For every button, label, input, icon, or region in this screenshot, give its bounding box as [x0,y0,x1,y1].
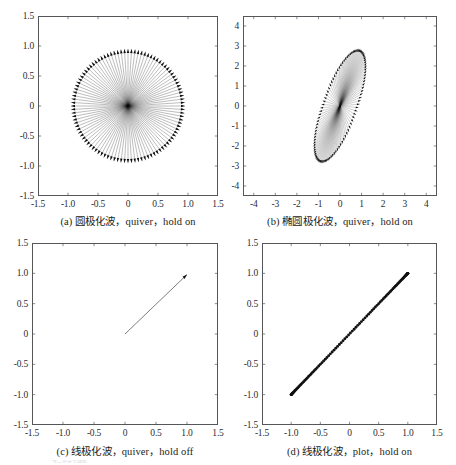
y-tick-label-b: 0 [213,101,239,111]
y-tick-label-a: 0.5 [8,71,34,81]
y-tick-label-a: -1.5 [8,191,34,201]
y-tick-label-d: 0.5 [232,299,258,309]
panel-caption-b: (b) 椭圆极化波，quiver，hold on [267,213,413,228]
page-bleed-text: 下一页文字残影 [52,458,408,463]
x-tick-label-d: 1.5 [431,428,442,438]
x-tick-label-c: -1.0 [56,428,70,438]
y-tick-label-d: -1.5 [232,420,258,430]
y-tick-label-d: 0 [232,329,258,339]
quiver-circular-plot [38,16,218,196]
x-tick-label-c: 0.5 [150,428,161,438]
x-tick-label-d: 0 [347,428,352,438]
panel-caption-a: (a) 圆极化波，quiver，hold on [60,213,195,228]
panel-a-circular-polarization [38,16,218,196]
y-tick-label-a: -1.0 [8,161,34,171]
x-tick-label-b: 0 [338,199,343,209]
x-tick-label-a: 1.0 [182,199,193,209]
x-tick-label-a: 0 [126,199,131,209]
x-tick-label-b: 1 [359,199,364,209]
x-tick-label-b: 2 [381,199,386,209]
x-tick-label-d: 0.5 [373,428,384,438]
y-tick-label-c: 0.5 [2,299,28,309]
x-tick-label-c: 1.5 [212,428,223,438]
x-tick-label-d: -0.5 [313,428,327,438]
panel-b-elliptical-polarization [243,16,437,196]
y-tick-label-c: -1.0 [2,390,28,400]
x-tick-label-a: -1.0 [61,199,75,209]
panel-d-linear-polarization-plot [262,243,437,425]
figure-page: -1.5-1.0-0.500.51.01.5-1.5-1.0-0.500.51.… [0,0,456,465]
quiver-single-arrow-plot [32,243,218,425]
x-tick-label-c: 0 [123,428,128,438]
y-tick-label-b: -1 [213,121,239,131]
y-tick-label-d: 1.5 [232,238,258,248]
x-tick-label-d: 1.0 [402,428,413,438]
y-tick-label-a: -0.5 [8,131,34,141]
y-tick-label-a: 1.0 [8,41,34,51]
x-tick-label-a: 0.5 [152,199,163,209]
y-tick-label-c: 1.5 [2,238,28,248]
y-tick-label-b: 3 [213,41,239,51]
y-tick-label-d: -0.5 [232,359,258,369]
x-tick-label-b: 3 [402,199,407,209]
x-tick-label-b: -4 [250,199,258,209]
y-tick-label-b: 4 [213,21,239,31]
y-tick-label-c: 1.0 [2,268,28,278]
x-tick-label-d: -1.0 [284,428,298,438]
x-tick-label-a: 1.5 [212,199,223,209]
y-tick-label-b: -4 [213,181,239,191]
y-tick-label-b: 1 [213,81,239,91]
x-tick-label-b: -3 [272,199,280,209]
marker-line-plot [262,243,437,425]
y-tick-label-c: -0.5 [2,359,28,369]
y-tick-label-a: 0 [8,101,34,111]
y-tick-label-c: -1.5 [2,420,28,430]
y-tick-label-a: 1.5 [8,11,34,21]
panel-c-linear-polarization-quiver [32,243,218,425]
x-tick-label-c: -0.5 [87,428,101,438]
y-tick-label-b: -2 [213,141,239,151]
y-tick-label-b: -3 [213,161,239,171]
y-tick-label-d: 1.0 [232,268,258,278]
panel-caption-d: (d) 线极化波，plot，hold on [287,443,412,458]
panel-caption-c: (c) 线极化波，quiver，hold off [57,443,194,458]
x-tick-label-b: 4 [424,199,429,209]
y-tick-label-b: 2 [213,61,239,71]
quiver-elliptical-plot [243,16,437,196]
x-tick-label-b: -2 [293,199,301,209]
x-tick-label-c: 1.0 [181,428,192,438]
y-tick-label-d: -1.0 [232,390,258,400]
y-tick-label-c: 0 [2,329,28,339]
x-tick-label-a: -0.5 [91,199,105,209]
x-tick-label-b: -1 [315,199,323,209]
